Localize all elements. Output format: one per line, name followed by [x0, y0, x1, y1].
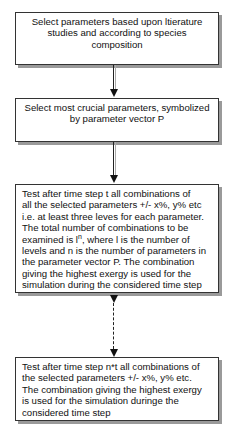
box-text-fragment: examined is l: [22, 234, 78, 245]
box-text-line: The total number of combinations to be: [22, 222, 212, 233]
box-text-line: levels and n is the number of parameters…: [22, 245, 212, 256]
box-text-line: simulation during the considered time st…: [22, 279, 212, 290]
arrow-down-icon: [110, 349, 118, 357]
box-text-line: all the selected parameters +/- x%, y% e…: [22, 199, 212, 210]
box-text-line: The combination giving the highest exerg…: [22, 384, 212, 395]
connector-shadow: [115, 142, 116, 178]
arrow-down-icon: [110, 295, 118, 303]
box-text-line: composition: [22, 39, 212, 50]
arrow-down-icon: [110, 175, 118, 183]
connector-line: [113, 142, 114, 175]
connector-line: [113, 65, 114, 90]
box-text-line: is used for the simulation duringe the: [22, 395, 212, 406]
box-text-line: the selected parameters +/- x%, y% etc.: [22, 372, 212, 383]
box-text-fragment: , where l is the number of: [82, 234, 190, 245]
box-text-line: Select parameters based upon ltierature: [22, 16, 212, 27]
step-box-test-time-step-t: Test after time step t all combinations …: [15, 184, 219, 293]
step-box-select-parameters: Select parameters based upon ltierature …: [15, 12, 219, 65]
box-text-line: examined is ln, where l is the number of: [22, 234, 212, 245]
box-text-line: Test after time step t all combinations …: [22, 188, 212, 199]
box-text-line: giving the highest exergy is used for th…: [22, 268, 212, 279]
step-box-crucial-parameters: Select most crucial parameters, symboliz…: [15, 98, 219, 142]
box-text-line: Test after time step n*t all combination…: [22, 361, 212, 372]
box-text-line: i.e. at least three leves for each param…: [22, 211, 212, 222]
box-text-line: the parameter vector P. The combination: [22, 256, 212, 267]
box-text-line: considered time step: [22, 407, 212, 418]
dashed-connector-line: [113, 303, 114, 349]
box-text-line: by parameter vector P: [22, 113, 212, 124]
box-text-line: studies and according to species: [22, 27, 212, 38]
box-text-line: Select most crucial parameters, symboliz…: [22, 102, 212, 113]
arrow-down-icon: [110, 89, 118, 97]
step-box-test-time-step-nt: Test after time step n*t all combination…: [15, 357, 219, 421]
